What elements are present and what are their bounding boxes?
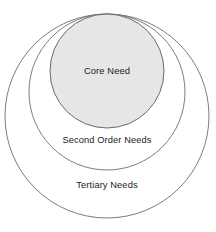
nested-circles-svg: Core Need Second Order Needs Tertiary Ne…	[0, 0, 216, 232]
needs-diagram: Core Need Second Order Needs Tertiary Ne…	[0, 0, 216, 232]
core-need-label: Core Need	[84, 65, 130, 76]
second-order-needs-label: Second Order Needs	[62, 135, 151, 145]
tertiary-needs-label: Tertiary Needs	[76, 180, 138, 190]
